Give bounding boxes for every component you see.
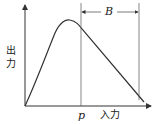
dimension-label-b: B — [105, 6, 113, 17]
p-label: p — [78, 110, 85, 121]
diagram: B 出力 p 入力 — [0, 0, 153, 124]
diagram-canvas — [0, 0, 153, 124]
x-axis-label: 入力 — [100, 110, 120, 120]
output-curve — [25, 20, 144, 106]
y-axis-label: 出力 — [6, 44, 18, 70]
